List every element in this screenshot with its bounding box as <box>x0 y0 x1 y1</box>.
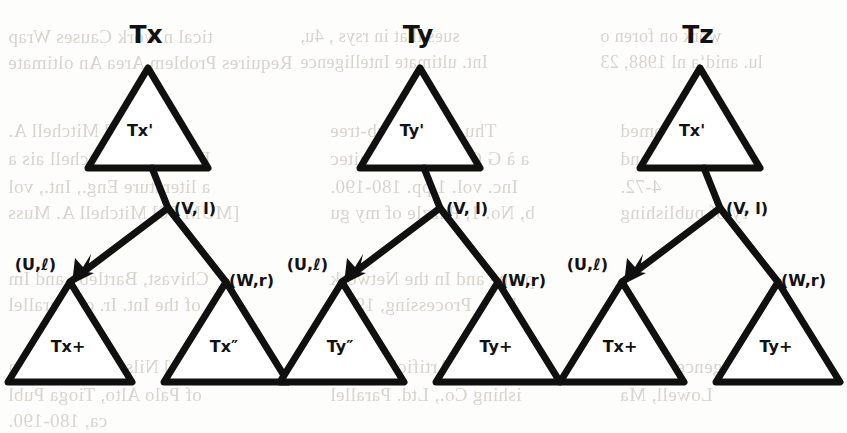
root-triangle <box>360 68 480 168</box>
right-leaf-label: Tx″ <box>210 337 238 356</box>
right-leaf-label: Ty+ <box>480 337 513 356</box>
left-edge-label: (U,ℓ) <box>15 255 56 274</box>
right-child-edge <box>440 208 498 282</box>
tree-diagram-group: TxTx'(V, l)(U,ℓ)(W,r)Tx+Tx″TyTy'(V, l)(U… <box>0 0 847 433</box>
left-leaf-label: Ty″ <box>327 337 354 356</box>
root-edge-label: (V, l) <box>174 199 216 218</box>
tree-tree-tx: TxTx'(V, l)(U,ℓ)(W,r)Tx+Tx″ <box>8 20 288 382</box>
left-leaf-label: Tx+ <box>603 337 638 356</box>
left-edge-label: (U,ℓ) <box>287 255 328 274</box>
right-edge-label: (W,r) <box>229 271 274 290</box>
tree-top-label: Ty <box>403 20 433 49</box>
right-edge-label: (W,r) <box>501 271 546 290</box>
root-edge-label: (V, l) <box>726 199 768 218</box>
left-edge-label: (U,ℓ) <box>567 255 608 274</box>
right-child-edge <box>168 208 226 282</box>
root-triangle-label: Tx' <box>127 121 153 140</box>
root-triangle <box>640 68 760 168</box>
tree-tree-tz: TzTx'(V, l)(U,ℓ)(W,r)Tx+Ty+ <box>560 20 840 382</box>
root-triangle-label: Tx' <box>679 121 705 140</box>
left-leaf-triangle <box>280 282 404 382</box>
left-leaf-triangle <box>8 282 132 382</box>
root-edge-label: (V, l) <box>446 199 488 218</box>
tree-tree-ty: TyTy'(V, l)(U,ℓ)(W,r)Ty″Ty+ <box>280 20 560 382</box>
root-edge <box>424 168 440 208</box>
tree-top-label: Tz <box>682 20 714 49</box>
right-leaf-label: Ty+ <box>760 337 793 356</box>
root-edge <box>152 168 168 208</box>
diagram-page: tical n work Causes WrapRequires Problem… <box>0 0 847 433</box>
root-triangle-label: Ty' <box>400 121 424 140</box>
left-leaf-triangle <box>560 282 684 382</box>
right-leaf-triangle <box>164 282 288 382</box>
right-leaf-triangle <box>716 282 840 382</box>
root-edge <box>704 168 720 208</box>
right-child-edge <box>720 208 778 282</box>
tree-top-label: Tx <box>129 20 162 49</box>
right-edge-label: (W,r) <box>781 271 826 290</box>
root-triangle <box>88 68 208 168</box>
left-leaf-label: Tx+ <box>51 337 86 356</box>
right-leaf-triangle <box>436 282 560 382</box>
